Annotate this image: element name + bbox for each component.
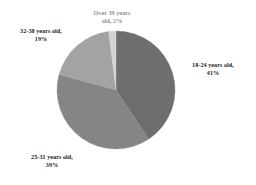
pie-label-32-38-years-old: 32-38 years old, 19% xyxy=(8,27,74,43)
pie-chart: 18-24 years old, 41% 25-31 years old, 39… xyxy=(0,0,256,185)
pie-label-over-39-years-old: Over 39 years old, 2% xyxy=(81,9,143,25)
pie-label-25-31-value: 39% xyxy=(17,161,87,169)
pie-label-18-24-value: 41% xyxy=(182,69,244,77)
pie-label-32-38-value: 19% xyxy=(8,35,74,43)
pie-label-25-31-name: 25-31 years old, xyxy=(17,153,87,161)
pie-label-25-31-years-old: 25-31 years old, 39% xyxy=(17,153,87,169)
pie-label-over-39-value: old, 2% xyxy=(81,17,143,25)
pie-label-18-24-name: 18-24 years old, xyxy=(182,61,244,69)
pie-slice-group xyxy=(57,31,175,149)
pie-label-18-24-years-old: 18-24 years old, 41% xyxy=(182,61,244,77)
pie-label-32-38-name: 32-38 years old, xyxy=(8,27,74,35)
pie-label-over-39-name: Over 39 years xyxy=(81,9,143,17)
